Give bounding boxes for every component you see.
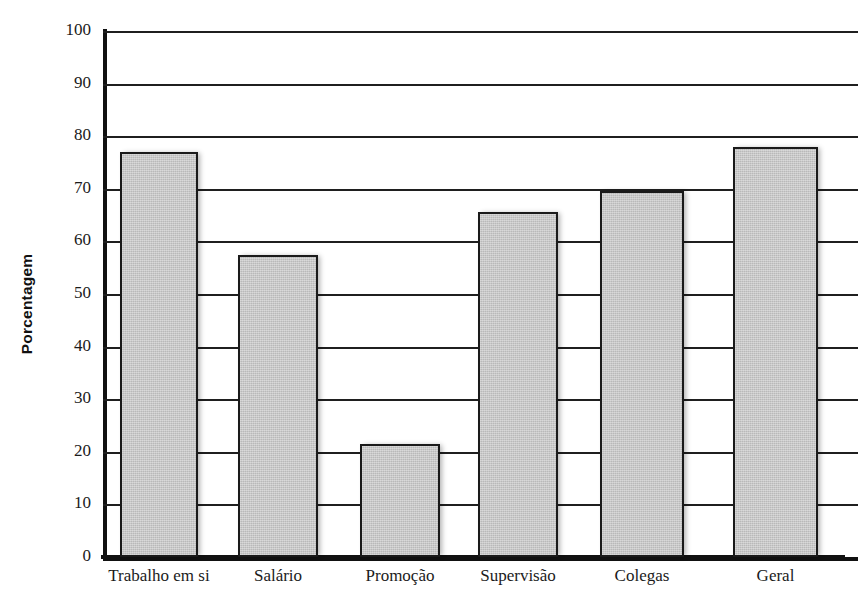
y-tick-label-80: 80 xyxy=(31,125,91,145)
y-tick-label-60: 60 xyxy=(31,230,91,250)
y-tick-label-10: 10 xyxy=(31,493,91,513)
plot-area xyxy=(103,31,858,557)
gridline-100 xyxy=(103,31,858,33)
y-tick-label-90: 90 xyxy=(31,73,91,93)
bar-1 xyxy=(238,255,318,557)
y-tick-label-40: 40 xyxy=(31,336,91,356)
y-tick-label-30: 30 xyxy=(31,388,91,408)
chart-title-cropped xyxy=(0,0,864,14)
gridline-90 xyxy=(103,84,858,86)
bar-5 xyxy=(733,147,818,557)
x-tick-label-5: Geral xyxy=(686,566,864,586)
bar-4 xyxy=(600,191,684,557)
y-tick-label-50: 50 xyxy=(31,283,91,303)
bar-0 xyxy=(120,152,198,557)
y-tick-label-70: 70 xyxy=(31,178,91,198)
y-tick-label-0: 0 xyxy=(31,546,91,566)
bar-3 xyxy=(478,212,558,557)
bar-chart: Porcentagem 0102030405060708090100 Traba… xyxy=(0,0,864,599)
y-tick-label-100: 100 xyxy=(31,20,91,40)
y-tick-label-20: 20 xyxy=(31,441,91,461)
gridline-80 xyxy=(103,136,858,138)
bar-2 xyxy=(360,444,440,557)
gridline-0 xyxy=(103,557,858,561)
